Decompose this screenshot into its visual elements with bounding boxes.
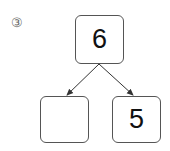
whole-box: 6 xyxy=(75,15,124,64)
missing-part-box[interactable] xyxy=(40,96,89,143)
part-box: 5 xyxy=(112,96,161,143)
arrow-right xyxy=(99,64,133,95)
arrow-left xyxy=(67,64,99,95)
